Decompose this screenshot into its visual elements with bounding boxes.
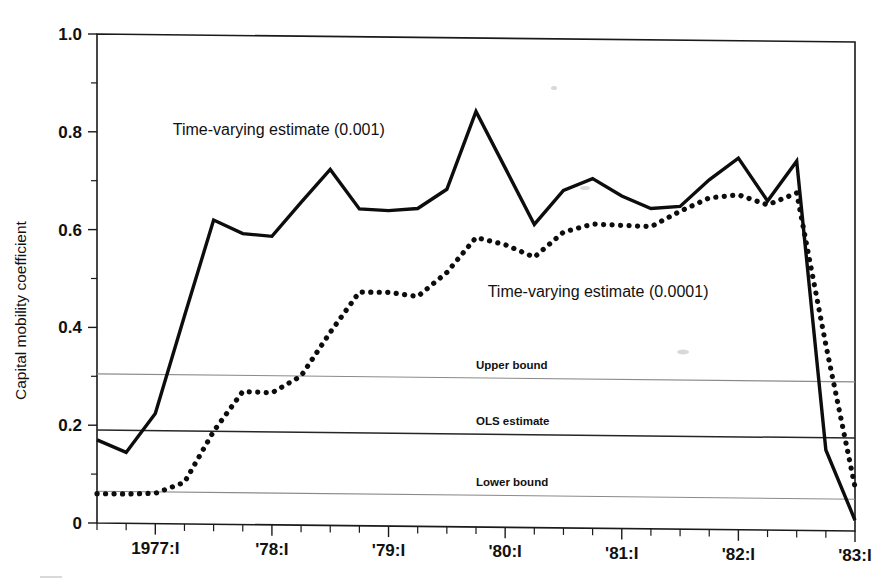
x-tick-label-0: 1977:I <box>131 539 179 558</box>
x-tick-label-2: '79:I <box>372 541 405 560</box>
figure-container: 00.20.40.60.81.0 1977:I'78:I'79:I'80:I'8… <box>0 0 883 586</box>
y-axis-title: Capital mobility coefficient <box>12 220 29 400</box>
data-series-layer <box>97 111 855 520</box>
y-tick-label-4: 0.8 <box>58 123 82 142</box>
reference-label-lower-bound: Lower bound <box>476 476 548 488</box>
x-tick-label-3: '80:I <box>488 542 521 561</box>
x-tick-label-1: '78:I <box>255 540 288 559</box>
reference-label-ols-estimate: OLS estimate <box>476 415 550 427</box>
scan-artifacts <box>40 86 689 578</box>
series-time-varying-00001 <box>97 193 855 494</box>
annotation-1: Time-varying estimate (0.0001) <box>488 283 709 300</box>
reference-line-lower-bound <box>97 491 855 499</box>
y-tick-label-3: 0.6 <box>58 221 82 240</box>
reference-line-upper-bound <box>97 374 855 382</box>
x-tick-label-4: '81:I <box>605 544 638 563</box>
capital-mobility-chart: 00.20.40.60.81.0 1977:I'78:I'79:I'80:I'8… <box>0 0 883 586</box>
y-tick-label-2: 0.4 <box>58 318 82 337</box>
y-tick-label-5: 1.0 <box>58 25 82 44</box>
series-annotations: Time-varying estimate (0.001)Time-varyin… <box>173 121 709 300</box>
series-time-varying-0001 <box>97 111 855 520</box>
annotation-0: Time-varying estimate (0.001) <box>173 121 385 138</box>
x-tick-label-6: '83:I <box>838 546 871 565</box>
y-tick-label-0: 0 <box>73 514 82 533</box>
y-axis: 00.20.40.60.81.0 <box>58 25 97 533</box>
reference-lines: Upper boundOLS estimateLower bound <box>97 359 855 499</box>
reference-label-upper-bound: Upper bound <box>476 359 548 371</box>
y-tick-label-1: 0.2 <box>58 416 82 435</box>
x-tick-label-5: '82:I <box>722 545 755 564</box>
